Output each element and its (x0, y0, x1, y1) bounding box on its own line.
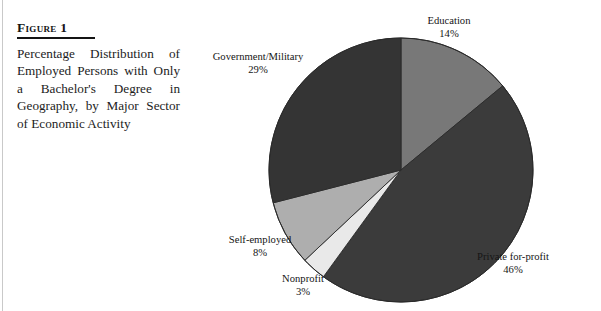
pie-label-self-employed-name: Self-employed (205, 233, 315, 246)
pie-label-nonprofit-value: 3% (253, 285, 353, 298)
pie-label-education-name: Education (399, 14, 499, 27)
figure-page: Figure 1 Percentage Distribution of Empl… (0, 0, 601, 311)
figure-caption-block: Figure 1 Percentage Distribution of Empl… (17, 18, 185, 133)
figure-caption-text: Percentage Distribution of Employed Pers… (17, 45, 180, 133)
pie-label-education-value: 14% (399, 27, 499, 40)
pie-label-private-for-profit: Private for-profit 46% (453, 250, 573, 276)
figure-label-underline (17, 37, 95, 39)
pie-label-government-military-value: 29% (193, 63, 323, 76)
pie-label-nonprofit: Nonprofit 3% (253, 272, 353, 298)
page-left-rule (2, 0, 3, 311)
pie-label-private-for-profit-value: 46% (453, 263, 573, 276)
pie-label-government-military: Government/Military 29% (193, 50, 323, 76)
pie-label-education: Education 14% (399, 14, 499, 40)
pie-label-self-employed-value: 8% (205, 246, 315, 259)
pie-label-private-for-profit-name: Private for-profit (453, 250, 573, 263)
pie-label-self-employed: Self-employed 8% (205, 233, 315, 259)
figure-number-label: Figure 1 (17, 20, 67, 36)
pie-chart: Education 14% Government/Military 29% Pr… (195, 0, 601, 311)
pie-label-nonprofit-name: Nonprofit (253, 272, 353, 285)
pie-label-government-military-name: Government/Military (193, 50, 323, 63)
